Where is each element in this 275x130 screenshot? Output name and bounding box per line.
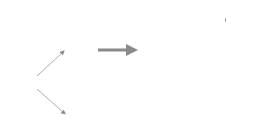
connector-layer <box>0 0 275 130</box>
edge-training-codebook <box>37 52 63 76</box>
edge-training-model <box>37 89 64 113</box>
